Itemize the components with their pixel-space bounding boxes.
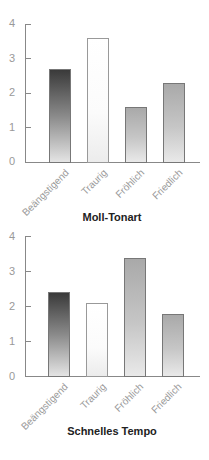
y-tick <box>25 306 31 307</box>
y-tick <box>25 271 31 272</box>
y-tick-label: 1 <box>6 335 18 347</box>
bar-beangstigend <box>48 292 70 377</box>
y-tick-label: 4 <box>6 230 18 242</box>
y-tick <box>25 236 31 237</box>
y-tick <box>25 341 31 342</box>
x-category-label: Traurig <box>78 381 108 411</box>
bar-frohlich <box>124 258 146 377</box>
bar-friedlich <box>162 314 184 377</box>
chart-schnelles-tempo: 4 3 2 1 0 Beängstigend Traurig Fröhlich … <box>0 0 209 460</box>
y-tick-label: 3 <box>6 265 18 277</box>
y-tick-label: 2 <box>6 300 18 312</box>
chart-title: Schnelles Tempo <box>0 425 209 437</box>
y-tick-label: 0 <box>6 370 18 382</box>
bar-traurig <box>86 303 108 377</box>
x-category-label: Friedlich <box>149 381 184 416</box>
x-category-label: Fröhlich <box>113 381 146 414</box>
